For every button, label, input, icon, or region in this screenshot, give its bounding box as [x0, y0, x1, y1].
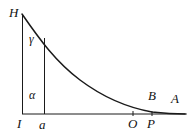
axis-label-O: O	[128, 117, 137, 130]
point-label-H: H	[9, 6, 18, 19]
decay-curve-diagram: H γ α I a O P B A	[0, 0, 192, 140]
axis-label-a: a	[39, 118, 46, 131]
region-label-gamma: γ	[29, 33, 34, 45]
axis-label-I: I	[17, 117, 21, 130]
diagram-canvas	[0, 0, 192, 140]
axis-label-P: P	[147, 117, 155, 130]
point-label-A: A	[171, 92, 179, 105]
point-label-B: B	[148, 89, 156, 102]
region-label-alpha: α	[29, 89, 35, 101]
exponential-decay-curve	[22, 14, 186, 114]
